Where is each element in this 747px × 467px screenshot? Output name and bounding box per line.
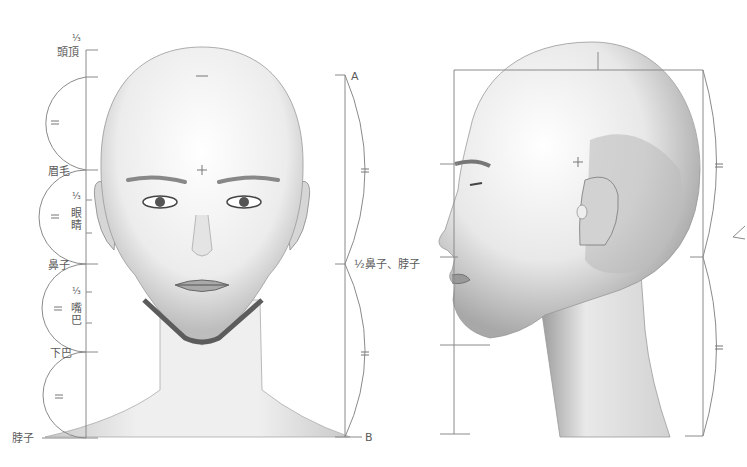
half-nose-neck-label: ½鼻子、脖子 [354, 259, 420, 270]
crown-fraction-label: ⅓ [72, 34, 81, 43]
nose-label: 鼻子 [48, 260, 70, 271]
front-head-figure [45, 47, 350, 437]
eyebrow-label: 眉毛 [48, 166, 70, 177]
mouth-fraction-label: ⅓ [72, 287, 81, 296]
eye-fraction-label: ⅓ [72, 192, 81, 201]
eyes-label: 眼睛 [70, 207, 81, 231]
head-proportion-illustration [0, 0, 747, 467]
front-left-scale [39, 50, 98, 438]
crown-label: 頭頂 [57, 47, 79, 58]
front-right-scale [335, 75, 365, 437]
side-head-figure [439, 42, 700, 437]
neck-label: 脖子 [12, 433, 34, 444]
point-b-label: B [365, 432, 373, 443]
chin-label: 下巴 [50, 348, 72, 359]
point-a-label: A [351, 71, 359, 82]
mouth-label: 嘴巴 [70, 302, 81, 326]
